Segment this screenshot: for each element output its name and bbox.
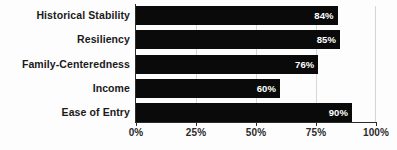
bar-income: 60% <box>136 79 280 98</box>
category-label-resiliency: Resiliency <box>0 30 131 49</box>
bar-value-label: 85% <box>317 30 336 49</box>
plot-area: 84% 85% 76% 60% 90% <box>136 6 376 122</box>
bar-series: 84% 85% 76% 60% 90% <box>136 6 376 122</box>
bar-row: 90% <box>136 103 376 122</box>
bar-resiliency: 85% <box>136 30 340 49</box>
category-label-historical-stability: Historical Stability <box>0 6 131 25</box>
x-tick-label-0: 0% <box>129 127 144 138</box>
x-axis-tick <box>196 123 197 126</box>
category-label-family-centeredness: Family-Centeredness <box>0 55 131 74</box>
bar-value-label: 60% <box>257 79 276 98</box>
bar-row: 84% <box>136 6 376 25</box>
x-tick-label-25: 25% <box>186 127 206 138</box>
x-tick-label-75: 75% <box>306 127 326 138</box>
x-axis-tick <box>376 123 377 126</box>
bar-historical-stability: 84% <box>136 6 338 25</box>
category-label-ease-of-entry: Ease of Entry <box>0 103 131 122</box>
x-axis-tick <box>136 123 137 126</box>
bar-chart: Historical Stability Resiliency Family-C… <box>0 0 397 150</box>
bar-row: 85% <box>136 30 376 49</box>
y-axis-line <box>135 4 136 123</box>
bar-family-centeredness: 76% <box>136 55 318 74</box>
bar-value-label: 84% <box>314 6 333 25</box>
category-axis-labels: Historical Stability Resiliency Family-C… <box>0 6 131 122</box>
x-axis-tick-labels: 0% 25% 50% 75% 100% <box>0 127 397 141</box>
x-tick-label-100: 100% <box>363 127 389 138</box>
category-label-income: Income <box>0 79 131 98</box>
x-tick-label-50: 50% <box>246 127 266 138</box>
bar-row: 60% <box>136 79 376 98</box>
bar-value-label: 76% <box>295 55 314 74</box>
bar-ease-of-entry: 90% <box>136 103 352 122</box>
x-axis-tick <box>256 123 257 126</box>
bar-value-label: 90% <box>329 103 348 122</box>
bar-row: 76% <box>136 55 376 74</box>
x-axis-tick <box>316 123 317 126</box>
